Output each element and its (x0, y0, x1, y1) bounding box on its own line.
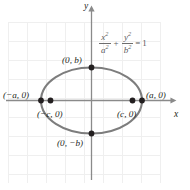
co-vertex-top-point (89, 65, 95, 71)
vertex-left-label: (−a, 0) (3, 91, 29, 100)
focus-left-point (48, 98, 54, 104)
focus-left-label: (−c, 0) (37, 110, 63, 119)
equation-term-1: x2 a2 (99, 31, 111, 55)
co-vertex-top-label: (0, b) (62, 56, 82, 65)
equation-equals-sign: = (135, 39, 140, 48)
equation-term-2: y2 b2 (122, 31, 134, 55)
ellipse-equation: x2 a2 + y2 b2 = 1 (99, 31, 147, 55)
equation-term-1-numerator: x2 (99, 31, 110, 43)
co-vertex-bottom-point (89, 131, 95, 137)
focus-right-point (130, 98, 136, 104)
vertex-right-label: (a, 0) (146, 91, 166, 100)
focus-right-label: (c, 0) (117, 110, 136, 119)
vertex-right-point (139, 98, 145, 104)
vertex-left-point (38, 98, 44, 104)
equation-plus-operator: + (113, 39, 120, 48)
ellipse-figure: y x (0, b) (0, −b) (−a, 0) (a, 0) (−c, 0… (0, 0, 190, 190)
x-axis-label: x (174, 110, 178, 120)
co-vertex-bottom-label: (0, −b) (57, 139, 83, 148)
ellipse-path (41, 68, 142, 134)
equation-right-hand-side: 1 (142, 39, 147, 48)
y-axis-label: y (84, 2, 88, 12)
equation-term-1-denominator: a2 (99, 44, 111, 56)
equation-term-2-denominator: b2 (122, 44, 134, 56)
equation-term-2-numerator: y2 (122, 31, 133, 43)
